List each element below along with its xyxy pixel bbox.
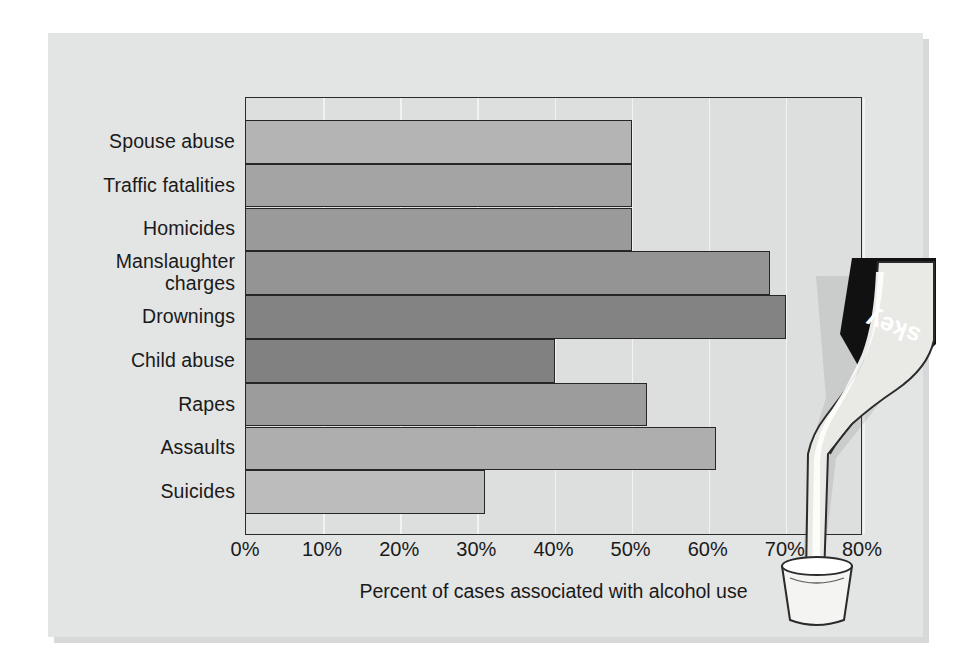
category-label-spouse-abuse: Spouse abuse bbox=[60, 130, 235, 152]
x-tick-50pct: 50% bbox=[611, 538, 651, 561]
category-label-line: Manslaughter bbox=[60, 250, 235, 272]
category-label-line: Assaults bbox=[60, 436, 235, 458]
category-label-line: Traffic fatalities bbox=[60, 174, 235, 196]
bar-rapes bbox=[245, 383, 647, 427]
category-label-line: Spouse abuse bbox=[60, 130, 235, 152]
category-label-line: Child abuse bbox=[60, 349, 235, 371]
bar-homicides bbox=[245, 208, 632, 252]
bar-suicides bbox=[245, 470, 485, 514]
category-label-line: Rapes bbox=[60, 393, 235, 415]
category-label-line: charges bbox=[60, 272, 235, 294]
category-label-rapes: Rapes bbox=[60, 393, 235, 415]
bar-child-abuse bbox=[245, 339, 555, 383]
x-tick-20pct: 20% bbox=[379, 538, 419, 561]
category-label-line: Drownings bbox=[60, 305, 235, 327]
category-label-suicides: Suicides bbox=[60, 480, 235, 502]
x-tick-40pct: 40% bbox=[533, 538, 573, 561]
x-tick-0pct: 0% bbox=[231, 538, 260, 561]
x-tick-10pct: 10% bbox=[302, 538, 342, 561]
whiskey-bottle-illustration: skey bbox=[756, 248, 946, 628]
category-label-assaults: Assaults bbox=[60, 436, 235, 458]
figure-canvas: Spouse abuseTraffic fatalitiesHomicidesM… bbox=[0, 0, 974, 671]
x-tick-60pct: 60% bbox=[688, 538, 728, 561]
category-axis-labels: Spouse abuseTraffic fatalitiesHomicidesM… bbox=[60, 97, 235, 535]
x-tick-30pct: 30% bbox=[456, 538, 496, 561]
category-label-homicides: Homicides bbox=[60, 217, 235, 239]
category-label-line: Homicides bbox=[60, 217, 235, 239]
bar-spouse-abuse bbox=[245, 120, 632, 164]
whiskey-bottle-icon: skey bbox=[756, 248, 946, 628]
glass-rim bbox=[782, 557, 852, 575]
category-label-line: Suicides bbox=[60, 480, 235, 502]
bar-manslaughter-charges bbox=[245, 251, 770, 295]
category-label-traffic-fatalities: Traffic fatalities bbox=[60, 174, 235, 196]
bar-assaults bbox=[245, 427, 716, 471]
bar-drownings bbox=[245, 295, 786, 339]
category-label-manslaughter-charges: Manslaughtercharges bbox=[60, 250, 235, 294]
category-label-drownings: Drownings bbox=[60, 305, 235, 327]
bar-traffic-fatalities bbox=[245, 164, 632, 208]
category-label-child-abuse: Child abuse bbox=[60, 349, 235, 371]
